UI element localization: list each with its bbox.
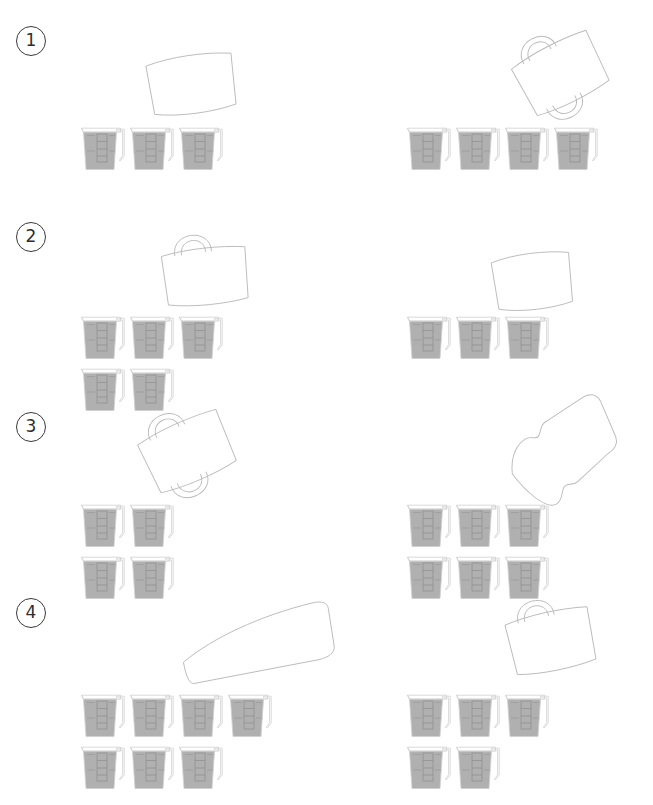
container-outline-mug-one-handle (144, 218, 265, 321)
container-outline-box-no-handle (474, 224, 590, 326)
row-number-badge: 3 (16, 412, 46, 442)
measuring-cup (504, 126, 552, 172)
measuring-cup (178, 315, 226, 361)
worksheet-sheet: 1234 (0, 0, 653, 805)
measuring-cup (504, 693, 552, 739)
measuring-cup (455, 315, 503, 361)
measuring-cup (406, 693, 454, 739)
measuring-cup (80, 126, 128, 172)
measuring-cup (129, 693, 177, 739)
measuring-cup (80, 367, 128, 413)
row-number-badge: 4 (16, 598, 46, 628)
measuring-cup (80, 745, 128, 791)
measuring-cup (129, 126, 177, 172)
container-outline-mug-two-handles (486, 0, 629, 136)
measuring-cup (178, 745, 226, 791)
measuring-cup (178, 126, 226, 172)
measuring-cup (406, 745, 454, 791)
measuring-cup (80, 693, 128, 739)
measuring-cup (129, 503, 177, 549)
measuring-cup (455, 555, 503, 601)
measuring-cup (80, 555, 128, 601)
measuring-cup (406, 555, 454, 601)
measuring-cup (129, 745, 177, 791)
measuring-cup (455, 126, 503, 172)
measuring-cup (227, 693, 275, 739)
measuring-cup (80, 315, 128, 361)
measuring-cup (504, 315, 552, 361)
container-outline-box-no-handle (128, 25, 254, 132)
measuring-cup (129, 315, 177, 361)
measuring-cup (455, 693, 503, 739)
row-number-badge: 2 (16, 222, 46, 252)
measuring-cup (406, 126, 454, 172)
measuring-cup (80, 503, 128, 549)
row-number-badge: 1 (16, 26, 46, 56)
measuring-cup (455, 503, 503, 549)
measuring-cup (553, 126, 601, 172)
measuring-cup (178, 693, 226, 739)
measuring-cup (504, 503, 552, 549)
measuring-cup (406, 315, 454, 361)
container-outline-tapered-box (159, 571, 354, 701)
measuring-cup (129, 555, 177, 601)
measuring-cup (406, 503, 454, 549)
measuring-cup (455, 745, 503, 791)
